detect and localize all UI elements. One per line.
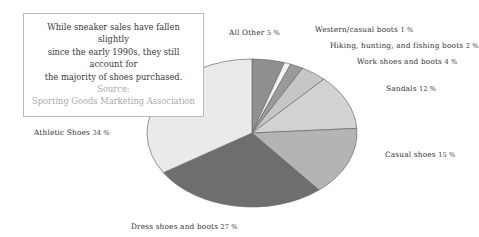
slice-label-sandals-name: Sandals	[386, 84, 417, 93]
caption-line-3: the majority of shoes purchased. Source:	[32, 71, 195, 96]
slice-label-dress-pct: 27 %	[221, 223, 238, 231]
caption-line-2: since the early 1990s, they still accoun…	[32, 46, 195, 71]
slice-label-work-shoes-and-boots: Work shoes and boots 4 %	[357, 57, 457, 66]
slice-label-work-name: Work shoes and boots	[357, 57, 442, 66]
slice-label-western-casual-boots: Western/casual boots 1 %	[315, 25, 413, 34]
caption-source-name: Sporting Goods Marketing Association	[32, 95, 195, 107]
slice-label-all-other-pct: 5 %	[267, 29, 280, 37]
slice-label-sandals: Sandals 12 %	[386, 84, 436, 93]
slice-label-dress-name: Dress shoes and boots	[131, 222, 218, 231]
slice-label-western-name: Western/casual boots	[315, 25, 398, 34]
slice-label-athletic-name: Athletic Shoes	[34, 128, 90, 137]
slice-label-athletic-pct: 34 %	[93, 129, 110, 137]
caption-line-1: While sneaker sales have fallen slightly	[32, 21, 195, 46]
caption-source-label: Source:	[97, 84, 129, 94]
slice-label-work-pct: 4 %	[445, 58, 458, 66]
slice-label-sandals-pct: 12 %	[419, 85, 436, 93]
slice-label-all-other: All Other 5 %	[229, 28, 280, 37]
caption-line-3-text: the majority of shoes purchased.	[45, 72, 183, 82]
slice-label-all-other-name: All Other	[229, 28, 264, 37]
slice-label-western-pct: 1 %	[400, 26, 413, 34]
slice-label-hiking-name: Hiking, hunting, and fishing boots	[330, 41, 463, 50]
slice-label-hiking-pct: 2 %	[466, 42, 479, 50]
slice-label-casual-name: Casual shoes	[385, 150, 436, 159]
slice-label-casual-shoes: Casual shoes 15 %	[385, 150, 455, 159]
slice-label-hiking-hunting-fishing-boots: Hiking, hunting, and fishing boots 2 %	[330, 41, 479, 50]
slice-label-dress-shoes-and-boots: Dress shoes and boots 27 %	[131, 222, 238, 231]
slice-label-athletic-shoes: Athletic Shoes 34 %	[34, 128, 110, 137]
caption-box: While sneaker sales have fallen slightly…	[23, 13, 204, 117]
slice-label-casual-pct: 15 %	[438, 151, 455, 159]
